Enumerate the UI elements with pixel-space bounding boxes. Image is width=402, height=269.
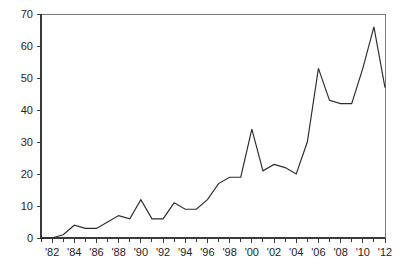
- x-tick-label: '96: [200, 246, 214, 258]
- x-tick-label: '92: [156, 246, 170, 258]
- chart-figure: 010203040506070 '82'84'86'88'90'92'94'96…: [0, 0, 402, 269]
- y-tick-label: 70: [21, 8, 33, 20]
- y-tick-label: 30: [21, 136, 33, 148]
- x-tick-label: '12: [378, 246, 392, 258]
- y-tick-label: 0: [27, 232, 33, 244]
- x-tick-label: '94: [178, 246, 192, 258]
- x-tick-label: '82: [45, 246, 59, 258]
- x-tick-label: '08: [333, 246, 347, 258]
- x-tick-label: '90: [134, 246, 148, 258]
- x-tick-label: '04: [289, 246, 303, 258]
- x-tick-label: '84: [67, 246, 81, 258]
- y-tick-label: 10: [21, 200, 33, 212]
- x-tick-label: '00: [245, 246, 259, 258]
- line-chart: 010203040506070 '82'84'86'88'90'92'94'96…: [0, 0, 402, 269]
- x-tick-label: '98: [222, 246, 236, 258]
- y-tick-label: 20: [21, 168, 33, 180]
- x-tick-label: '10: [356, 246, 370, 258]
- x-tick-label: '88: [112, 246, 126, 258]
- x-tick-label: '02: [267, 246, 281, 258]
- chart-background: [0, 0, 402, 269]
- y-tick-label: 60: [21, 40, 33, 52]
- y-tick-label: 40: [21, 104, 33, 116]
- y-tick-label: 50: [21, 72, 33, 84]
- x-tick-label: '86: [89, 246, 103, 258]
- x-tick-label: '06: [311, 246, 325, 258]
